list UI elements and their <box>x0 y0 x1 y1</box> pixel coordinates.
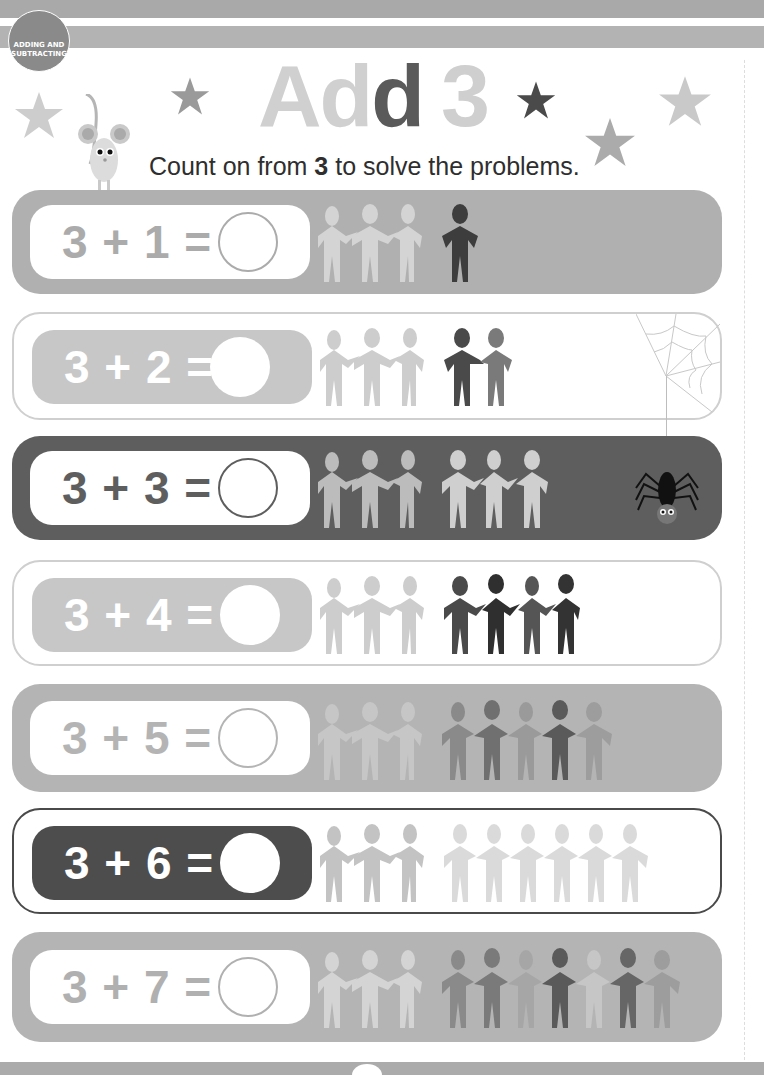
answer-circle[interactable] <box>210 337 270 397</box>
paper-people-group <box>314 570 594 660</box>
equation-box: 3 + 4 = <box>32 578 312 652</box>
star-icon <box>516 80 556 120</box>
paper-people-group <box>312 198 512 288</box>
star-icon <box>170 76 210 116</box>
equation-box: 3 + 5 = <box>30 701 310 775</box>
problem-row: 3 + 2 = <box>12 312 722 420</box>
problem-row: 3 + 7 = <box>12 932 722 1042</box>
paper-people-group <box>312 944 732 1034</box>
paper-person-icon <box>392 204 422 282</box>
section-badge: ADDING AND SUBTRACTING <box>8 10 70 72</box>
equation-text: 3 + 4 = <box>64 588 214 642</box>
paper-people-group <box>314 322 534 412</box>
star-icon <box>14 90 64 140</box>
spider-icon <box>634 466 700 528</box>
equation-box: 3 + 6 = <box>32 826 312 900</box>
footer-band <box>0 1062 764 1075</box>
paper-person-icon <box>352 204 398 282</box>
page-title: Add3 <box>258 52 488 140</box>
top-band <box>0 0 764 18</box>
equation-text: 3 + 6 = <box>64 836 214 890</box>
header-band <box>0 26 764 48</box>
paper-person-icon <box>442 204 478 282</box>
answer-circle[interactable] <box>220 833 280 893</box>
star-icon <box>584 116 636 168</box>
problem-row: 3 + 1 = <box>12 190 722 294</box>
paper-people-group <box>312 696 642 786</box>
equation-text: 3 + 3 = <box>62 461 212 515</box>
equation-text: 3 + 2 = <box>64 340 214 394</box>
answer-circle[interactable] <box>218 458 278 518</box>
instruction-text: Count on from 3 to solve the problems. <box>149 152 580 181</box>
answer-circle[interactable] <box>220 585 280 645</box>
answer-circle[interactable] <box>218 708 278 768</box>
equation-box: 3 + 1 = <box>30 205 310 279</box>
problem-row: 3 + 3 = <box>12 436 722 540</box>
paper-people-group <box>312 444 572 534</box>
mouse-icon <box>76 94 136 190</box>
section-badge-label: ADDING AND SUBTRACTING <box>9 41 69 59</box>
equation-text: 3 + 1 = <box>62 215 212 269</box>
spiderweb-icon <box>636 314 722 414</box>
equation-box: 3 + 3 = <box>30 451 310 525</box>
paper-people-group <box>314 818 694 908</box>
star-icon <box>658 74 712 128</box>
page-edge-guide <box>744 60 745 1060</box>
problem-row: 3 + 6 = <box>12 808 722 914</box>
problem-row: 3 + 4 = <box>12 560 722 666</box>
equation-box: 3 + 2 = <box>32 330 312 404</box>
equation-text: 3 + 5 = <box>62 711 212 765</box>
equation-box: 3 + 7 = <box>30 950 310 1024</box>
problem-row: 3 + 5 = <box>12 684 722 792</box>
equation-text: 3 + 7 = <box>62 960 212 1014</box>
answer-circle[interactable] <box>218 957 278 1017</box>
answer-circle[interactable] <box>218 212 278 272</box>
